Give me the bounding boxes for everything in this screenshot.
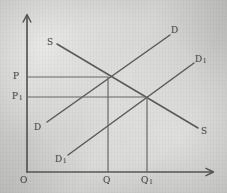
quantity-label-q1: Q1 xyxy=(141,176,153,186)
price-label-p-text: P xyxy=(13,71,19,81)
supply-label-top-left: S xyxy=(47,38,54,48)
demand-label-left: D xyxy=(34,123,42,133)
quantity-label-q: Q xyxy=(103,176,111,186)
demand1-label-top-right-sub: 1 xyxy=(203,57,207,65)
demand1-label-top-right: D1 xyxy=(195,55,207,65)
demand1-label-bottom-left: D1 xyxy=(55,155,67,165)
demand1-label-top-right-text: D xyxy=(195,54,202,64)
demand-label-top-right: D xyxy=(171,26,179,36)
demand-label-top-right-text: D xyxy=(171,25,178,35)
demand1-label-bottom-left-text: D xyxy=(55,154,62,164)
supply-label-bottom-right: S xyxy=(201,127,208,137)
diagram-sheet: O P P1 Q Q1 S S D D D1 D1 xyxy=(0,0,227,193)
supply-curve-s xyxy=(57,44,198,128)
quantity-label-q1-sub: 1 xyxy=(149,178,153,186)
quantity-label-q-text: Q xyxy=(103,175,111,185)
price-label-p1: P1 xyxy=(12,92,23,102)
demand-label-left-text: D xyxy=(34,122,41,132)
price-label-p1-text: P xyxy=(12,91,18,101)
price-label-p: P xyxy=(13,72,20,82)
supply-demand-plot xyxy=(0,0,227,193)
quantity-label-q1-text: Q xyxy=(141,175,149,185)
demand1-label-bottom-left-sub: 1 xyxy=(63,157,67,165)
price-label-p1-sub: 1 xyxy=(19,94,23,102)
origin-label: O xyxy=(20,176,28,185)
supply-label-bottom-right-text: S xyxy=(201,126,207,136)
supply-label-top-left-text: S xyxy=(47,37,53,47)
